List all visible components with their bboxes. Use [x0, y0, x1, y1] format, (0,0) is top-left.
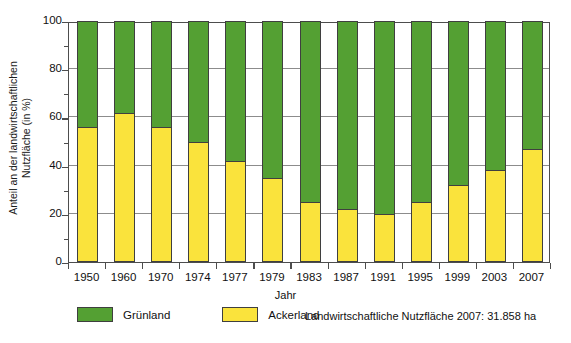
bar-segment-ackerland [411, 202, 432, 262]
y-axis-title: Anteil an der landwirtschaftlichen Nutzf… [0, 0, 40, 275]
x-tick-mark [402, 263, 403, 269]
x-axis-title: Jahr [0, 289, 571, 301]
x-tick-mark [290, 263, 291, 269]
y-axis-title-line1: Anteil an der landwirtschaftlichen [7, 61, 20, 215]
x-tick-mark [550, 263, 551, 269]
bar-segment-gruenland [225, 21, 246, 162]
bar-segment-gruenland [188, 21, 209, 143]
x-tick-mark [68, 263, 69, 269]
x-tick-mark [365, 263, 366, 269]
bar-segment-gruenland [522, 21, 543, 150]
bar-segment-ackerland [374, 214, 395, 262]
x-tick-mark [216, 263, 217, 269]
bar-segment-gruenland [77, 21, 98, 128]
chart-footnote: Landwirtschaftliche Nutzfläche 2007: 31.… [305, 310, 536, 322]
x-tick-mark [142, 263, 143, 269]
x-tick-mark [476, 263, 477, 269]
stacked-bar [522, 21, 543, 262]
bar-segment-gruenland [411, 21, 432, 203]
legend-item: Grünland [77, 307, 170, 322]
x-tick-label: 2007 [508, 271, 554, 283]
y-tick-label: 40 [34, 159, 62, 171]
stacked-bar [262, 21, 283, 262]
bar-segment-gruenland [337, 21, 358, 210]
x-tick-mark [513, 263, 514, 269]
bar-segment-ackerland [522, 149, 543, 262]
y-tick-label: 100 [34, 14, 62, 26]
bar-segment-ackerland [337, 209, 358, 262]
bar-segment-gruenland [300, 21, 321, 203]
legend-swatch [77, 307, 113, 322]
bar-segment-gruenland [448, 21, 469, 186]
x-tick-mark [439, 263, 440, 269]
stacked-bar [337, 21, 358, 262]
bar-segment-gruenland [151, 21, 172, 128]
bar-segment-ackerland [262, 178, 283, 262]
legend-label: Grünland [123, 309, 170, 321]
x-tick-mark [179, 263, 180, 269]
bar-segment-ackerland [188, 142, 209, 263]
y-axis-title-line2: Nutzfläche (in %) [20, 61, 33, 215]
stacked-bar [151, 21, 172, 262]
stacked-bar [225, 21, 246, 262]
plot-area [68, 22, 550, 263]
legend-swatch [222, 307, 258, 322]
y-tick-label: 20 [34, 207, 62, 219]
stacked-bar [448, 21, 469, 262]
bar-segment-gruenland [374, 21, 395, 215]
bar-segment-gruenland [485, 21, 506, 171]
y-tick-label: 60 [34, 110, 62, 122]
bar-segment-ackerland [485, 170, 506, 262]
stacked-bar [485, 21, 506, 262]
x-tick-mark [328, 263, 329, 269]
stacked-bar [188, 21, 209, 262]
x-tick-mark [253, 263, 254, 269]
stacked-bar [411, 21, 432, 262]
bar-segment-gruenland [114, 21, 135, 114]
y-tick-label: 0 [34, 255, 62, 267]
bar-segment-gruenland [262, 21, 283, 179]
bar-segment-ackerland [77, 127, 98, 262]
stacked-bar [374, 21, 395, 262]
y-tick-label: 80 [34, 62, 62, 74]
bar-segment-ackerland [151, 127, 172, 262]
bar-segment-ackerland [225, 161, 246, 262]
x-tick-mark [105, 263, 106, 269]
stacked-bar [77, 21, 98, 262]
stacked-bar [114, 21, 135, 262]
stacked-bar [300, 21, 321, 262]
bar-segment-ackerland [448, 185, 469, 262]
bar-segment-ackerland [300, 202, 321, 262]
bar-segment-ackerland [114, 113, 135, 262]
